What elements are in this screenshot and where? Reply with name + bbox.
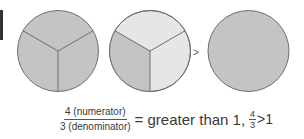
circle-one-whole-thirds xyxy=(18,11,99,92)
comparison-text: >1 xyxy=(257,111,273,127)
fraction-label: 4 (numerator) 3 (denominator) xyxy=(60,106,131,133)
numerator-label: 4 (numerator) xyxy=(64,106,127,120)
equation: 4 (numerator) 3 (denominator) = greater … xyxy=(60,102,273,136)
denominator-label: 3 (denominator) xyxy=(60,120,131,133)
circle-two-one-third xyxy=(109,11,190,92)
small-fraction-numerator: 4 xyxy=(249,109,256,120)
equals-text: = greater than 1, xyxy=(135,111,246,128)
circle-three-whole xyxy=(208,11,289,92)
fraction-circles-figure: > xyxy=(0,0,304,100)
small-fraction: 4 3 xyxy=(249,109,256,130)
greater-than-symbol: > xyxy=(193,47,199,58)
small-fraction-denominator: 3 xyxy=(250,120,255,130)
